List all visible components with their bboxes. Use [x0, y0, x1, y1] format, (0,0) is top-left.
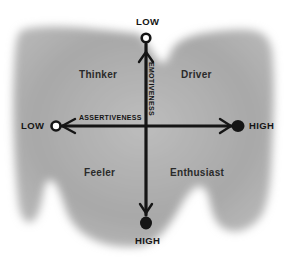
- quadrant-enthusiast: Enthusiast: [170, 168, 224, 178]
- assertiveness-low-label: LOW: [21, 121, 44, 131]
- quadrant-thinker: Thinker: [79, 70, 117, 80]
- background-blob: [13, 27, 274, 247]
- emotiveness-high-label: HIGH: [135, 236, 160, 246]
- quadrant-driver: Driver: [181, 70, 212, 80]
- assertiveness-axis-label: ASSERTIVENESS: [79, 114, 142, 121]
- quadrant-feeler: Feeler: [84, 168, 115, 178]
- emotiveness-low-label: LOW: [136, 17, 159, 27]
- emotiveness-axis-label: EMOTIVENESS: [148, 62, 155, 116]
- social-style-diagram: LOW HIGH LOW HIGH ASSERTIVENESS EMOTIVEN…: [0, 0, 288, 261]
- assertiveness-high-label: HIGH: [249, 121, 274, 131]
